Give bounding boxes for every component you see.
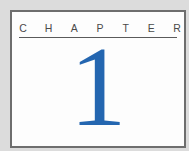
chapter-number: 1 [12, 30, 184, 144]
chapter-title-frame: C H A P T E R 1 [10, 10, 186, 148]
